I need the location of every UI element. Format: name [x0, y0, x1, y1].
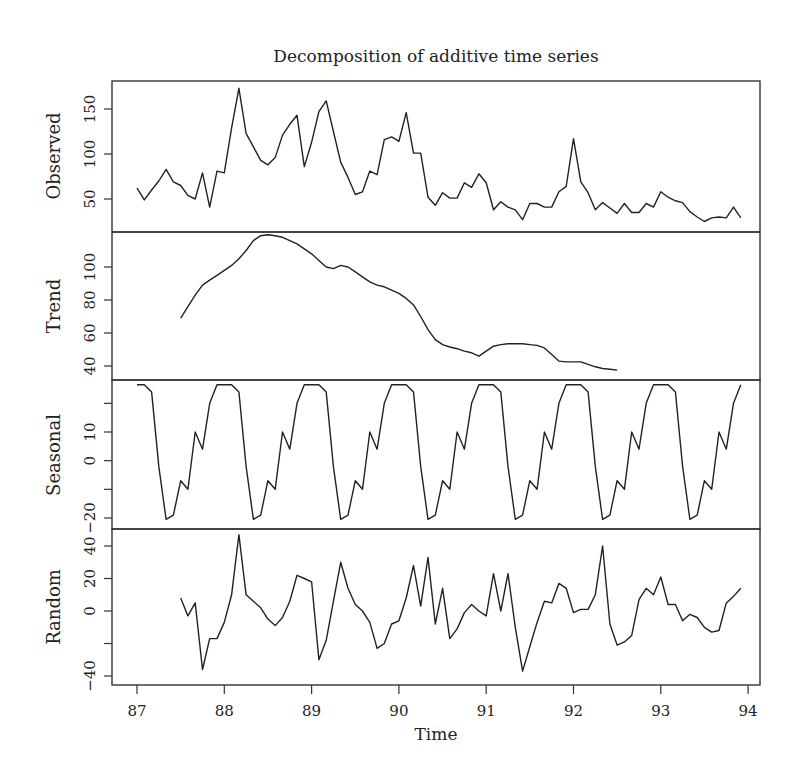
- y-tick-label: 50: [81, 189, 99, 208]
- random-ylabel: Random: [43, 569, 64, 645]
- observed-line: [137, 88, 741, 221]
- y-tick-label: 100: [81, 140, 99, 169]
- x-axis: 8788899091929394: [127, 685, 757, 720]
- y-tick-label: 80: [81, 290, 99, 309]
- x-axis-label: Time: [415, 724, 458, 744]
- trend-frame: [112, 232, 760, 380]
- y-tick-label: 100: [81, 253, 99, 282]
- panel-random: −4002040 Random: [43, 529, 760, 692]
- random-y-axis: −4002040: [81, 536, 112, 691]
- trend-ylabel: Trend: [43, 279, 64, 333]
- observed-ylabel: Observed: [43, 112, 64, 199]
- seasonal-ylabel: Seasonal: [43, 414, 64, 496]
- random-line: [181, 535, 741, 672]
- y-tick-label: 0: [81, 606, 99, 616]
- x-tick-label: 94: [739, 702, 758, 720]
- observed-frame: [112, 81, 760, 232]
- chart-title: Decomposition of additive time series: [273, 46, 598, 66]
- random-frame: [112, 529, 760, 685]
- x-tick-label: 92: [564, 702, 583, 720]
- y-tick-label: 10: [81, 422, 99, 441]
- panel-trend: 406080100 Trend: [43, 232, 760, 380]
- x-tick-label: 91: [477, 702, 496, 720]
- seasonal-frame: [112, 380, 760, 529]
- trend-line: [181, 235, 617, 370]
- y-tick-label: 60: [81, 323, 99, 342]
- decomposition-chart: Decomposition of additive time series 50…: [0, 0, 803, 783]
- y-tick-label: −20: [81, 502, 99, 534]
- observed-y-axis: 50100150: [81, 95, 112, 209]
- seasonal-y-axis: −20010: [81, 403, 112, 533]
- y-tick-label: −40: [81, 660, 99, 692]
- y-tick-label: 20: [81, 569, 99, 588]
- x-tick-label: 89: [302, 702, 321, 720]
- seasonal-line: [137, 385, 741, 520]
- y-tick-label: 40: [81, 536, 99, 555]
- x-tick-label: 93: [651, 702, 670, 720]
- x-tick-label: 88: [215, 702, 234, 720]
- y-tick-label: 40: [81, 356, 99, 375]
- y-tick-label: 150: [81, 95, 99, 124]
- panel-observed: 50100150 Observed: [43, 81, 760, 232]
- x-tick-label: 90: [389, 702, 408, 720]
- panel-seasonal: −20010 Seasonal: [43, 380, 760, 534]
- trend-y-axis: 406080100: [81, 253, 112, 376]
- x-tick-label: 87: [127, 702, 146, 720]
- y-tick-label: 0: [81, 456, 99, 466]
